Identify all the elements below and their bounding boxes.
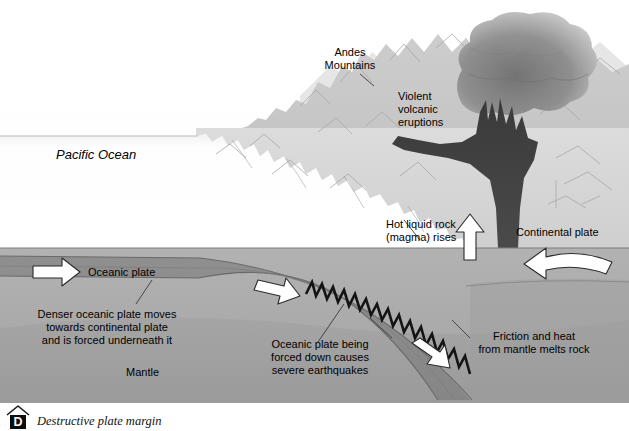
label-denser-oceanic-plate: Denser oceanic plate moves towards conti…	[14, 308, 200, 347]
label-magma-rises: Hot liquid rock (magma) rises	[386, 218, 456, 244]
destructive-plate-margin-figure: Pacific Ocean Andes Mountains Violent vo…	[0, 8, 629, 403]
label-violent-eruptions: Violent volcanic eruptions	[398, 90, 443, 129]
caption-text: Destructive plate margin	[37, 414, 162, 429]
label-friction-heat: Friction and heat from mantle melts rock	[456, 330, 612, 356]
label-mantle: Mantle	[126, 366, 159, 379]
diagram-page: Pacific Ocean Andes Mountains Violent vo…	[0, 0, 629, 431]
label-severe-earthquakes: Oceanic plate being forced down causes s…	[240, 338, 400, 377]
label-pacific-ocean: Pacific Ocean	[56, 148, 136, 161]
label-continental-plate: Continental plate	[516, 226, 599, 239]
page-top-artifact	[88, 0, 102, 6]
caption-marker-icon: D	[5, 404, 31, 430]
caption-badge-letter: D	[13, 415, 22, 429]
label-andes-mountains: Andes Mountains	[308, 46, 392, 72]
figure-caption-bar: D Destructive plate margin	[0, 403, 629, 431]
label-oceanic-plate: Oceanic plate	[88, 266, 155, 279]
volcanic-ash-plume	[457, 12, 597, 115]
